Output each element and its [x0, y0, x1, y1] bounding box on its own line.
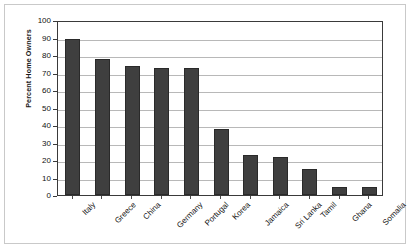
y-tick-label: 60 — [21, 87, 51, 95]
y-tick-label: 20 — [21, 157, 51, 165]
chart-figure: Percent Home Owners 10090807060504030201… — [0, 0, 412, 250]
x-tick-mark — [279, 196, 280, 199]
x-tick-mark — [339, 196, 340, 199]
bar — [302, 169, 317, 195]
gridline — [58, 40, 382, 41]
gridline — [58, 57, 382, 58]
x-tick-mark — [101, 196, 102, 199]
bar — [125, 66, 140, 196]
bar — [214, 129, 229, 195]
x-tick-mark — [220, 196, 221, 199]
x-tick-mark — [161, 196, 162, 199]
y-tick-mark — [53, 196, 57, 197]
bar — [332, 187, 347, 195]
plot-area — [57, 21, 383, 196]
bar — [273, 157, 288, 196]
y-tick-label: 50 — [21, 105, 51, 113]
y-tick-label: 100 — [21, 17, 51, 25]
x-tick-mark — [368, 196, 369, 199]
x-tick-mark — [190, 196, 191, 199]
x-tick-mark — [250, 196, 251, 199]
y-tick-label: 90 — [21, 35, 51, 43]
y-tick-label: 0 — [21, 192, 51, 200]
y-tick-label: 10 — [21, 175, 51, 183]
y-tick-label: 80 — [21, 52, 51, 60]
y-tick-label: 30 — [21, 140, 51, 148]
x-tick-mark — [131, 196, 132, 199]
y-tick-label: 70 — [21, 70, 51, 78]
bar — [154, 68, 169, 195]
bar — [65, 39, 80, 195]
bar — [95, 59, 110, 195]
y-tick-label: 40 — [21, 122, 51, 130]
bar — [184, 68, 199, 195]
bar — [362, 187, 377, 195]
x-tick-mark — [309, 196, 310, 199]
x-tick-mark — [72, 196, 73, 199]
bar — [243, 155, 258, 195]
